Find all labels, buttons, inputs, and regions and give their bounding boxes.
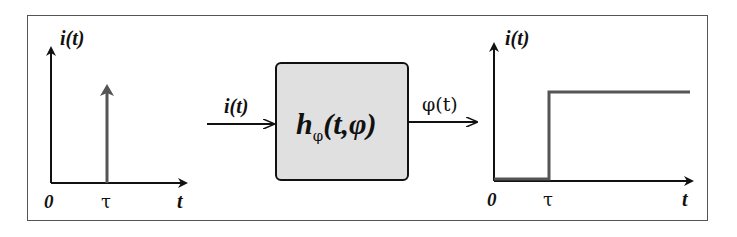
input-label: i(t): [224, 95, 248, 118]
system-block: hφ(t,φ): [276, 63, 408, 180]
system-subscript: φ: [313, 127, 324, 145]
left-origin-label: 0: [44, 191, 54, 212]
right-x-label: t: [682, 188, 689, 210]
left-x-label: t: [177, 190, 184, 212]
left-plot: i(t) 0 τ t: [44, 27, 186, 212]
diagram-canvas: i(t) 0 τ t i(t) hφ(t,φ) φ(t) i(t) 0 τ t: [0, 0, 737, 237]
system-function: hφ(t,φ): [296, 107, 377, 145]
system-main: h: [296, 107, 313, 140]
right-plot: i(t) 0 τ t: [487, 27, 692, 210]
step-signal: [494, 92, 690, 179]
system-args: (t,φ): [323, 107, 376, 141]
left-tau-label: τ: [101, 191, 111, 212]
right-y-label: i(t): [505, 27, 529, 50]
right-tau-label: τ: [543, 189, 553, 210]
output-label: φ(t): [422, 93, 458, 115]
right-origin-label: 0: [487, 189, 497, 210]
left-y-label: i(t): [60, 27, 84, 50]
